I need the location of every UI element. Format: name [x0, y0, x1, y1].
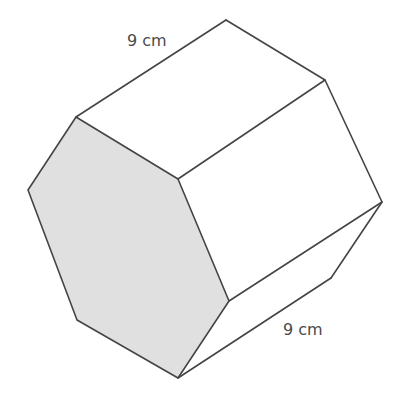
- length-label: 9 cm: [127, 31, 167, 50]
- side-length-label: 9 cm: [283, 320, 323, 339]
- hexagonal-prism-diagram: 9 cm 9 cm: [0, 0, 406, 393]
